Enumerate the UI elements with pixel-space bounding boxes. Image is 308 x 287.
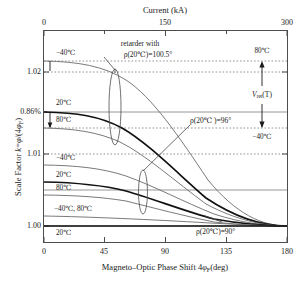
top-tick-150: 150 — [159, 19, 171, 27]
x-tick-90: 90 — [161, 248, 169, 256]
x-axis-title-pre: Magneto–Optic Phase Shift 4 — [102, 262, 202, 272]
y-axis-title-close: ) — [13, 118, 23, 121]
x-tick-45: 45 — [100, 248, 108, 256]
x-axis-title: Magneto–Optic Phase Shift 4φF(deg) — [102, 263, 228, 273]
top-tick-0: 0 — [42, 19, 46, 27]
curve-label-g1-minus40: −40℃ — [56, 50, 75, 57]
vret-label: Vret(T) — [252, 91, 272, 100]
curve-label-g3-20: 20℃ — [56, 230, 71, 237]
curve-label-g2-20: 20℃ — [56, 172, 71, 179]
curve-label-g3-minus40-and-80: −40℃, 80℃ — [54, 206, 92, 213]
y-axis-title-k: k — [13, 148, 23, 152]
x-tick-180: 180 — [281, 248, 293, 256]
curve-label-g2-80: 80℃ — [56, 185, 71, 192]
y-axis-title-pre: Scale Factor — [13, 152, 23, 196]
y-axis-title: Scale Factor k=φ/(4φF) — [13, 118, 24, 196]
y-axis-title-phi2: φ — [13, 124, 23, 129]
annotation-rho-96: ρ(20℃ )=96° — [190, 117, 231, 125]
x-axis-title-post: (deg) — [210, 262, 228, 272]
y-tick-1p02: 1.02 — [27, 68, 41, 76]
y-tick-1p01: 1.01 — [27, 150, 41, 158]
y-axis-title-eq: = — [13, 143, 23, 148]
vret-label-t: (T) — [262, 90, 272, 99]
top-axis-title: Current (kA) — [143, 6, 187, 15]
right-label-80c: 80℃ — [254, 48, 269, 55]
y-label-0p86pct: 0.86% — [20, 108, 41, 116]
x-tick-135: 135 — [220, 248, 232, 256]
chart-figure: Current (kA) 0 150 300 1.02 0.86% 1.01 1… — [0, 0, 308, 287]
curve-label-g1-80: 80℃ — [56, 117, 71, 124]
curve-label-g1-20: 20℃ — [56, 100, 71, 107]
annotation-retarder-with: retarder with — [121, 40, 160, 48]
y-axis-title-phi: φ — [13, 138, 23, 143]
annotation-rho-90: ρ(20℃)=90° — [196, 228, 235, 236]
y-tick-1p00: 1.00 — [27, 222, 41, 230]
x-tick-0: 0 — [42, 248, 46, 256]
right-label-minus40c: −40℃ — [252, 134, 271, 141]
y-axis-title-rest: /(4 — [13, 129, 23, 138]
y-axis-title-sub: F — [18, 121, 24, 124]
top-tick-300: 300 — [281, 19, 293, 27]
curve-label-g2-minus40: −40℃ — [56, 155, 75, 162]
annotation-rho-100p5: ρ(20℃)=100.5° — [124, 51, 173, 59]
